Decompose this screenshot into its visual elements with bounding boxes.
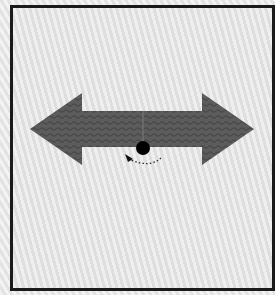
figure-canvas	[0, 0, 275, 295]
figure-svg	[0, 0, 275, 295]
rotation-arc-icon	[131, 158, 161, 164]
pivot-dot-icon	[136, 141, 150, 155]
